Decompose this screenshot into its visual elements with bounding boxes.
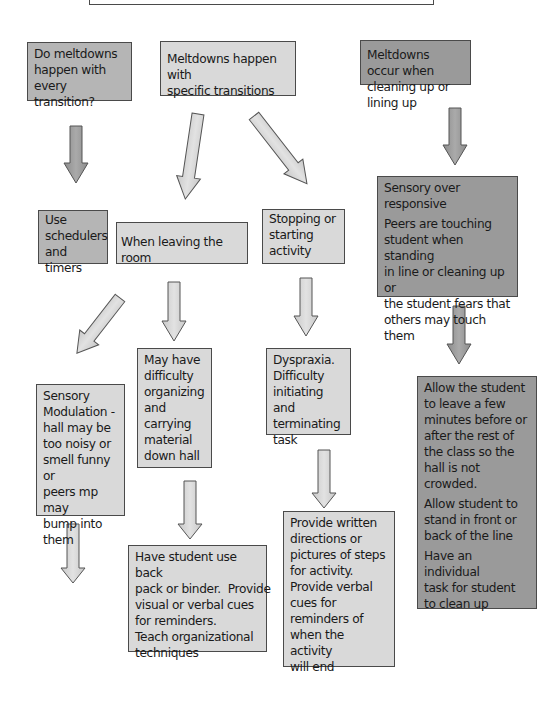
arrow-down-icon (312, 450, 336, 508)
box-written-directions: Provide written directions or pictures o… (283, 511, 395, 667)
box-text: for reminders. (135, 613, 260, 629)
box-allow-leave-early: Allow the student to leave a few minutes… (417, 376, 537, 609)
box-text: schedulers (45, 228, 101, 244)
box-text: Meltdowns happen with (167, 51, 289, 83)
box-text: carrying (144, 416, 205, 432)
arrow-down-icon (294, 278, 318, 336)
box-text: them (43, 532, 118, 548)
box-text: in line or cleaning up or (384, 264, 511, 296)
box-text: Peers are touching (384, 216, 511, 232)
box-text: Sensory over (384, 180, 511, 196)
box-paragraph: Have an individual task for student to c… (424, 548, 530, 612)
box-text: stand in front or (424, 512, 530, 528)
box-text: organizing (144, 384, 205, 400)
box-text: task (273, 432, 344, 448)
box-text: the student fears that (384, 296, 511, 312)
box-text: Stopping or (269, 211, 338, 227)
box-text: the class so the (424, 444, 530, 460)
box-text: will end (290, 659, 388, 675)
box-text: transition? (34, 94, 125, 110)
box-text: hall is not (424, 460, 530, 476)
box-text: after the rest of (424, 428, 530, 444)
box-text: too noisy or (43, 436, 118, 452)
box-heading: Sensory over responsive (384, 180, 511, 212)
box-text: material (144, 432, 205, 448)
box-text: Modulation - (43, 404, 118, 420)
box-text: Provide verbal (290, 579, 388, 595)
box-text: to leave a few (424, 396, 530, 412)
box-stopping-starting: Stopping or starting activity (262, 209, 345, 264)
box-text: crowded. (424, 476, 530, 492)
box-text: activity (269, 243, 338, 259)
box-text: task for student (424, 580, 530, 596)
box-text: starting (269, 227, 338, 243)
box-text: May have (144, 352, 205, 368)
box-every-transition: Do meltdowns happen with every transitio… (27, 42, 132, 101)
box-organizing: May have difficulty organizing and carry… (137, 348, 212, 468)
box-text: specific transitions (167, 83, 289, 99)
box-text: and (144, 400, 205, 416)
box-text: bump into (43, 516, 118, 532)
box-text: Allow student to (424, 496, 530, 512)
box-text: Dyspraxia. (273, 352, 344, 368)
box-text: initiating and (273, 384, 344, 416)
box-paragraph: Allow student to stand in front or back … (424, 496, 530, 544)
arrow-diagonal-right-icon (245, 109, 317, 192)
box-leaving-room: When leaving the room (116, 222, 248, 264)
box-sensory-over-responsive: Sensory over responsive Peers are touchi… (377, 176, 518, 297)
box-text: difficulty (144, 368, 205, 384)
box-text: Sensory (43, 388, 118, 404)
box-text: pack or binder. Provide (135, 581, 260, 597)
box-text: and timers (45, 244, 101, 276)
box-text: happen with every (34, 62, 125, 94)
box-schedulers-timers: Use schedulers and timers (38, 210, 108, 264)
box-text: to clean up (424, 596, 530, 612)
box-text: visual or verbal cues (135, 597, 260, 613)
box-text: responsive (384, 196, 511, 212)
box-text: Use (45, 212, 101, 228)
box-text: when the activity (290, 627, 388, 659)
box-text: Do meltdowns (34, 46, 125, 62)
box-text: When leaving the room (121, 234, 241, 266)
box-text: pictures of steps (290, 547, 388, 563)
box-text: cleaning up or lining up (367, 79, 464, 111)
box-backpack-binder: Have student use back pack or binder. Pr… (128, 545, 267, 652)
box-text: peers mp may (43, 484, 118, 516)
box-text: techniques (135, 645, 260, 661)
box-paragraph: Allow the student to leave a few minutes… (424, 380, 530, 492)
box-text: cues for (290, 595, 388, 611)
box-dyspraxia: Dyspraxia. Difficulty initiating and ter… (266, 348, 351, 435)
arrow-down-icon (178, 481, 202, 539)
box-specific-transitions: Meltdowns happen with specific transitio… (160, 41, 296, 96)
box-text: terminating (273, 416, 344, 432)
box-text: Have an individual (424, 548, 530, 580)
box-sensory-modulation: Sensory Modulation - hall may be too noi… (36, 384, 125, 516)
box-text: Allow the student (424, 380, 530, 396)
box-text: down hall (144, 448, 205, 464)
box-text: back of the line (424, 528, 530, 544)
arrow-down-icon (162, 282, 186, 341)
box-text: Provide written (290, 515, 388, 531)
box-text: directions or (290, 531, 388, 547)
box-text: smell funny or (43, 452, 118, 484)
box-text: others may touch them (384, 312, 511, 344)
box-text: Have student use back (135, 549, 260, 581)
arrow-down-icon (64, 126, 88, 183)
box-text: Teach organizational (135, 629, 260, 645)
box-text: student when standing (384, 232, 511, 264)
arrow-diagonal-left-icon (67, 291, 129, 361)
box-text: Difficulty (273, 368, 344, 384)
box-text: Meltdowns occur when (367, 47, 464, 79)
top-title-box (89, 0, 434, 5)
arrow-diagonal-left-icon (173, 112, 209, 201)
box-text: hall may be (43, 420, 118, 436)
box-cleaning-lining: Meltdowns occur when cleaning up or lini… (360, 40, 471, 85)
box-text: minutes before or (424, 412, 530, 428)
box-text: for activity. (290, 563, 388, 579)
arrow-down-icon (443, 108, 467, 165)
box-body: Peers are touching student when standing… (384, 216, 511, 344)
box-text: reminders of (290, 611, 388, 627)
